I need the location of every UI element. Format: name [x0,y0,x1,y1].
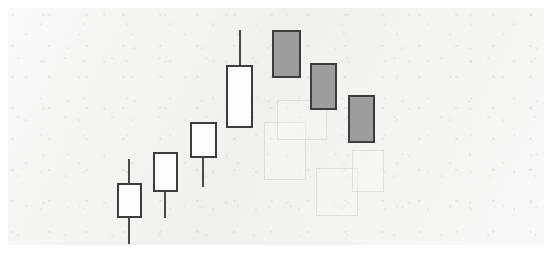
candle-body-down [348,95,375,143]
candle-body-down [310,63,337,110]
candle-body-up [226,65,253,128]
candle-body-up [117,183,142,218]
candle-body-up [153,152,178,192]
scanned-paper-plate [8,8,544,245]
candlestick-chart [0,0,552,257]
ghost-mark [352,150,384,192]
candle-body-down [272,30,301,78]
candle-body-up [190,122,217,158]
